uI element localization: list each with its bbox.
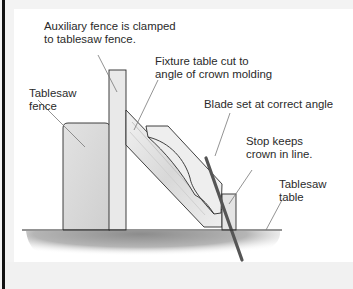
tablesaw-fence-shape (63, 123, 110, 230)
label-line: fence (29, 100, 77, 113)
label-blade: Blade set at correct angle (204, 98, 333, 111)
label-line: Auxiliary fence is clamped (44, 20, 176, 33)
label-fixture-table: Fixture table cut to angle of crown mold… (155, 55, 272, 81)
label-line: Tablesaw (279, 178, 327, 191)
label-line: crown in line. (246, 148, 312, 161)
label-line: Tablesaw (29, 87, 77, 100)
label-stop: Stop keeps crown in line. (246, 135, 312, 161)
auxiliary-fence-shape (109, 70, 126, 230)
label-tablesaw-table: Tablesaw table (279, 178, 327, 204)
label-line: to tablesaw fence. (44, 33, 176, 46)
label-line: Blade set at correct angle (204, 98, 333, 111)
label-line: Stop keeps (246, 135, 312, 148)
label-line: Fixture table cut to (155, 55, 272, 68)
label-line: angle of crown molding (155, 68, 272, 81)
label-line: table (279, 191, 327, 204)
label-auxiliary-fence: Auxiliary fence is clamped to tablesaw f… (44, 20, 176, 46)
label-tablesaw-fence: Tablesaw fence (29, 87, 77, 113)
